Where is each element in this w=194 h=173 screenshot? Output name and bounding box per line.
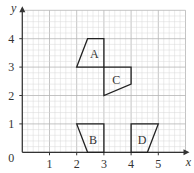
- shape-label-b: B: [89, 133, 97, 147]
- y-tick-label: 4: [8, 32, 14, 46]
- y-tick-label: 1: [8, 117, 14, 131]
- x-tick-label: 1: [47, 157, 53, 171]
- shape-label-a: A: [90, 47, 99, 61]
- x-tick-label: 4: [128, 157, 134, 171]
- x-tick-label: 2: [74, 157, 80, 171]
- y-axis-arrow-icon: [19, 6, 25, 12]
- y-axis-label: y: [10, 1, 17, 15]
- shape-label-d: D: [138, 133, 147, 147]
- x-tick-label: 5: [155, 157, 161, 171]
- shape-label-c: C: [112, 73, 120, 87]
- y-tick-label: 3: [8, 60, 14, 74]
- x-tick-label: 3: [101, 157, 107, 171]
- y-tick-label: 2: [8, 89, 14, 103]
- tick-labels: 1234512340xy: [8, 1, 192, 171]
- origin-label: 0: [8, 151, 14, 165]
- x-axis-label: x: [185, 155, 192, 169]
- coordinate-grid-diagram: ABCD 1234512340xy: [0, 0, 194, 173]
